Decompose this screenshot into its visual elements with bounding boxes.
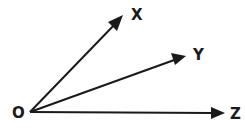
ray-oy — [30, 53, 186, 112]
ray-ox-line — [30, 22, 117, 112]
label-x: X — [131, 6, 143, 24]
ray-ox — [30, 15, 123, 112]
ray-oz-line — [30, 112, 214, 113]
label-z: Z — [230, 105, 241, 123]
ray-oz — [30, 107, 225, 119]
arrowhead-y-icon — [171, 53, 186, 65]
label-o: O — [12, 104, 25, 122]
angle-diagram: O X Y Z — [0, 0, 245, 130]
label-y: Y — [192, 46, 205, 64]
arrowhead-z-icon — [211, 107, 225, 119]
ray-oy-line — [30, 59, 177, 112]
